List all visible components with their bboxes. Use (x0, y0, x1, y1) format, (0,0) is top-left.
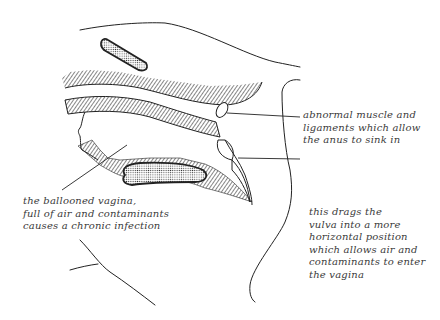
label-muscle-ligaments: abnormal muscle and ligaments which allo… (303, 109, 421, 147)
tail-outline (250, 80, 300, 302)
label-line: contaminants to enter (309, 256, 425, 269)
label-line: horizontal position (309, 231, 425, 244)
rectum-wall (65, 96, 220, 137)
label-line: the ballooned vagina, (23, 195, 169, 208)
ventral-line (80, 240, 155, 305)
label-line: this drags the (309, 206, 425, 219)
label-line: causes a chronic infection (23, 220, 169, 233)
pubic-bone (123, 163, 206, 185)
label-ballooned-vagina: the ballooned vagina, full of air and co… (23, 195, 169, 233)
leader-line-muscle (227, 113, 300, 117)
label-line: full of air and contaminants (23, 208, 169, 221)
label-line: vulva into a more (309, 219, 425, 232)
label-line: ligaments which allow (303, 122, 421, 135)
label-line: the anus to sink in (303, 134, 421, 147)
label-line: which allows air and (309, 244, 425, 257)
sacrum-bone (101, 39, 147, 71)
leg-line (70, 264, 98, 270)
label-vulva-position: this drags the vulva into a more horizon… (309, 206, 425, 281)
label-line: the vagina (309, 269, 425, 282)
leader-line-vulva (238, 158, 300, 159)
label-line: abnormal muscle and (303, 109, 421, 122)
